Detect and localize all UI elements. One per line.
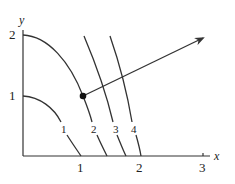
level-curve-1 [23, 96, 61, 122]
x-tick-label-3: 3 [199, 160, 206, 175]
x-tick-label-2: 2 [136, 160, 143, 175]
point-on-curve [80, 93, 87, 100]
level-curve-4-lower [136, 135, 141, 156]
level-curve-1-lower [67, 135, 81, 156]
axes [23, 30, 210, 156]
gradient-arrow [83, 38, 203, 96]
level-curve-label-4: 4 [131, 123, 137, 135]
level-curve-label-1: 1 [61, 123, 67, 135]
level-curve-2 [23, 35, 92, 122]
y-axis-label: y [18, 13, 25, 27]
level-curve-3-lower [117, 135, 126, 156]
level-curve-2-lower [97, 135, 107, 156]
x-tick-label-1: 1 [77, 160, 84, 175]
y-tick-label-1: 1 [9, 88, 16, 103]
level-curve-diagram: y x 2 1 1 2 3 1 2 3 4 [0, 0, 235, 184]
y-tick-label-2: 2 [9, 27, 16, 42]
x-axis-label: x [213, 149, 220, 163]
level-curve-label-2: 2 [91, 123, 97, 135]
level-curve-4 [110, 36, 132, 122]
level-curve-label-3: 3 [113, 123, 119, 135]
